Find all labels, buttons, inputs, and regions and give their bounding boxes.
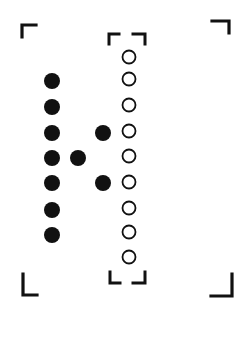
open-circle	[123, 202, 136, 215]
outer-corner-top-right	[212, 21, 229, 33]
open-circle	[123, 51, 136, 64]
inner-corner-top-right	[133, 34, 145, 44]
open-circle	[123, 73, 136, 86]
open-circle	[123, 176, 136, 189]
filled-dot	[95, 175, 111, 191]
filled-dot	[44, 150, 60, 166]
inner-corner-bottom-right	[133, 272, 145, 283]
filled-dot	[70, 150, 86, 166]
open-circles-column	[123, 51, 136, 264]
inner-corner-top-left	[109, 34, 119, 44]
outer-corner-bottom-left	[23, 274, 37, 295]
open-circle	[123, 125, 136, 138]
outer-corner-bottom-right	[211, 274, 232, 296]
filled-dot	[44, 125, 60, 141]
filled-dot	[95, 125, 111, 141]
filled-dot	[44, 73, 60, 89]
filled-dot	[44, 227, 60, 243]
inner-frame-brackets	[109, 34, 145, 283]
filled-dot	[44, 99, 60, 115]
open-circle	[123, 251, 136, 264]
open-circle	[123, 150, 136, 163]
filled-dot	[44, 202, 60, 218]
open-circle	[123, 226, 136, 239]
outer-corner-top-left	[22, 25, 36, 37]
open-circle	[123, 99, 136, 112]
filled-dots-group	[44, 73, 111, 243]
inner-corner-bottom-left	[110, 272, 120, 283]
dot-pattern-diagram	[0, 0, 239, 337]
filled-dot	[44, 175, 60, 191]
